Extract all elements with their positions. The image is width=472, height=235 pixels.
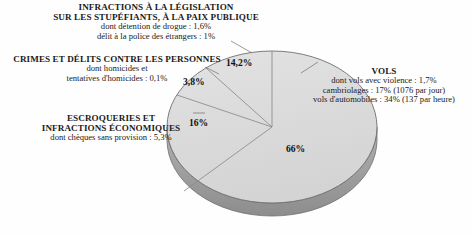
annotation-econ: ESCROQUERIES ET INFRACTIONS ÉCONOMIQUES … — [16, 113, 206, 143]
leader-drugs — [231, 41, 252, 53]
annotation-vols-sub-line-3: vols d'automobiles : 34% (137 par heure) — [296, 95, 472, 105]
annotation-econ-heading-line-1: ESCROQUERIES ET — [16, 113, 206, 123]
annotation-econ-sub-line-1: dont chèques sans provision : 5,3% — [16, 133, 206, 143]
slice-value-label-econ: 16% — [189, 117, 208, 128]
annotation-drugs: INFRACTIONS À LA LÉGISLATION SUR LES STU… — [36, 2, 276, 42]
annotation-vols: VOLS dont vols avec violence : 1,7% camb… — [296, 66, 472, 105]
annotation-drugs-sub-line-2: délit à la police des étrangers : 1% — [36, 32, 276, 42]
footer-caption — [0, 229, 472, 235]
pie-chart-figure: INFRACTIONS À LA LÉGISLATION SUR LES STU… — [0, 0, 472, 235]
slice-value-label-vols: 66% — [286, 143, 305, 154]
annotation-drugs-heading-line-1: INFRACTIONS À LA LÉGISLATION — [36, 2, 276, 12]
slice-value-label-drugs: 14,2% — [226, 57, 252, 68]
slice-value-label-persons: 3,8% — [183, 76, 205, 87]
